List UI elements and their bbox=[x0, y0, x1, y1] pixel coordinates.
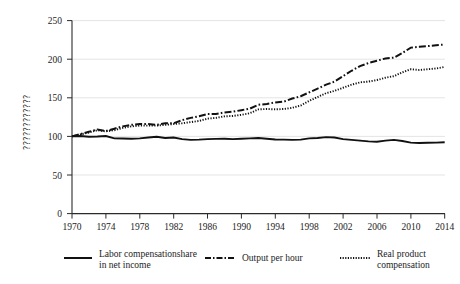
x-tick-marks bbox=[72, 214, 445, 219]
x-tick-labels: 1970 1974 1978 1982 1986 1990 1994 1998 … bbox=[63, 222, 455, 232]
x-tick-label-1970: 1970 bbox=[63, 222, 82, 232]
x-tick-label-1982: 1982 bbox=[164, 222, 183, 232]
y-tick-marks bbox=[67, 21, 72, 214]
legend-label-labor-line2: in net income bbox=[99, 260, 151, 270]
legend-label-real-product-line1: Real product bbox=[377, 249, 426, 259]
x-tick-label-2006: 2006 bbox=[368, 222, 387, 232]
legend-label-labor-line1: Labor compensationshare bbox=[99, 249, 197, 259]
y-tick-label-100: 100 bbox=[48, 132, 63, 142]
y-axis-title: ???????????? bbox=[23, 94, 32, 150]
x-tick-label-1990: 1990 bbox=[232, 222, 251, 232]
y-tick-label-250: 250 bbox=[48, 16, 63, 26]
x-tick-label-1978: 1978 bbox=[130, 222, 149, 232]
legend-item-output-per-hour[interactable]: Output per hour bbox=[205, 253, 304, 263]
x-tick-label-2014: 2014 bbox=[435, 222, 454, 232]
x-tick-label-1974: 1974 bbox=[96, 222, 115, 232]
legend-item-real-product-compensation[interactable]: Real product compensation bbox=[340, 249, 430, 270]
legend-label-output-per-hour: Output per hour bbox=[242, 253, 304, 263]
line-chart: 250 200 150 100 50 0 ???????????? 1970 bbox=[0, 0, 460, 284]
legend-item-labor-compensation-share[interactable]: Labor compensationshare in net income bbox=[64, 249, 197, 270]
gridlines bbox=[72, 21, 445, 175]
x-tick-label-2002: 2002 bbox=[334, 222, 353, 232]
x-tick-label-2010: 2010 bbox=[401, 222, 420, 232]
series-labor-compensation-share bbox=[72, 136, 445, 143]
y-tick-labels: 250 200 150 100 50 0 bbox=[48, 16, 63, 219]
y-tick-label-0: 0 bbox=[57, 209, 62, 219]
y-tick-label-50: 50 bbox=[53, 171, 63, 181]
chart-figure: 250 200 150 100 50 0 ???????????? 1970 bbox=[0, 0, 460, 284]
axes bbox=[72, 21, 445, 214]
series-output-per-hour bbox=[72, 45, 445, 137]
x-tick-label-1994: 1994 bbox=[266, 222, 285, 232]
chart-legend: Labor compensationshare in net income Ou… bbox=[64, 249, 430, 270]
y-tick-label-200: 200 bbox=[48, 55, 63, 65]
x-tick-label-1998: 1998 bbox=[300, 222, 319, 232]
x-tick-label-1986: 1986 bbox=[198, 222, 217, 232]
y-tick-label-150: 150 bbox=[48, 93, 63, 103]
legend-label-real-product-line2: compensation bbox=[377, 260, 430, 270]
